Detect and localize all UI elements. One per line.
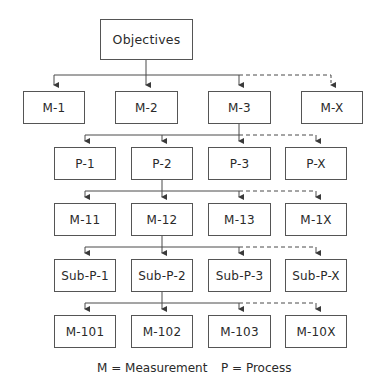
node-m-2: M-2 (115, 91, 178, 124)
node-m-103: M-103 (208, 315, 271, 348)
node-sub-p-2: Sub-P-2 (131, 259, 193, 292)
node-m-3: M-3 (208, 91, 271, 124)
node-m-10x: M-10X (285, 315, 347, 348)
node-m-1: M-1 (23, 91, 85, 124)
hierarchy-diagram: Objectives M-1 M-2 M-3 M-X P-1 P-2 P-3 P… (0, 0, 376, 386)
legend-process: P = Process (221, 361, 291, 375)
node-m-101: M-101 (54, 315, 116, 348)
node-sub-p-1: Sub-P-1 (54, 259, 116, 292)
node-p-1: P-1 (54, 147, 116, 180)
node-sub-p-x: Sub-P-X (285, 259, 347, 292)
node-m-1x: M-1X (285, 203, 347, 236)
node-objectives: Objectives (100, 19, 193, 60)
legend: M = Measurement P = Process (0, 361, 376, 379)
node-p-x: P-X (285, 147, 347, 180)
node-m-12: M-12 (131, 203, 193, 236)
legend-measurement: M = Measurement (97, 361, 207, 375)
node-m-13: M-13 (208, 203, 271, 236)
node-p-2: P-2 (131, 147, 193, 180)
node-m-11: M-11 (54, 203, 116, 236)
node-m-102: M-102 (131, 315, 193, 348)
node-sub-p-3: Sub-P-3 (208, 259, 271, 292)
node-m-x: M-X (301, 91, 363, 124)
node-p-3: P-3 (208, 147, 271, 180)
